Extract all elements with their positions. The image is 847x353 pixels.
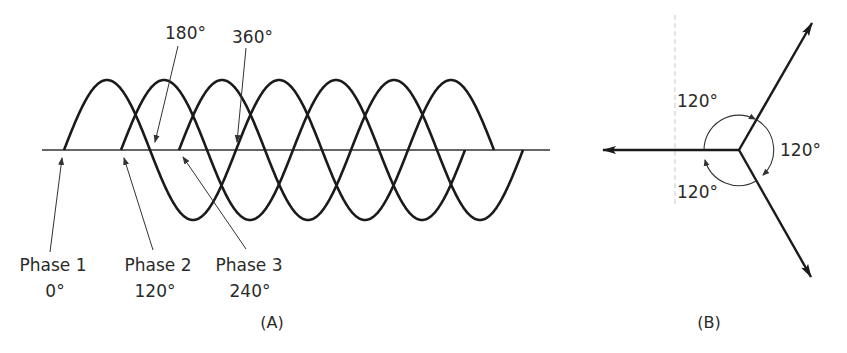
phase-2-name: Phase 2 <box>125 255 192 275</box>
label-180-degrees: 180° <box>165 23 206 43</box>
angle-label-lower-left: 120° <box>677 182 718 202</box>
phase-1-angle: 0° <box>45 281 64 301</box>
phase-1-name: Phase 1 <box>20 255 87 275</box>
phase-3-name: Phase 3 <box>216 255 283 275</box>
angle-arc-upper <box>704 115 755 150</box>
leader-phase2-arrow <box>124 158 153 250</box>
label-360-degrees: 360° <box>232 27 273 47</box>
panel-b-phasor-diagram: 120° 120° 120° (B) <box>603 15 821 332</box>
panel-a-sine-waves: 180° 360° Phase 1 0° Phase 2 120° Phase … <box>20 23 550 332</box>
leader-180-arrow <box>155 46 178 142</box>
panel-a-caption: (A) <box>260 313 283 332</box>
panel-b-caption: (B) <box>697 313 720 332</box>
angle-label-upper-left: 120° <box>677 91 718 111</box>
phasor-upper-right-arrow <box>739 23 812 150</box>
leader-phase1-arrow <box>50 158 62 252</box>
phase-2-angle: 120° <box>135 281 176 301</box>
angle-label-right: 120° <box>780 140 821 160</box>
phase-3-angle: 240° <box>230 281 271 301</box>
three-phase-figure: 180° 360° Phase 1 0° Phase 2 120° Phase … <box>0 0 847 353</box>
angle-arc-right <box>757 120 774 175</box>
phasor-lower-right-arrow <box>739 150 811 277</box>
